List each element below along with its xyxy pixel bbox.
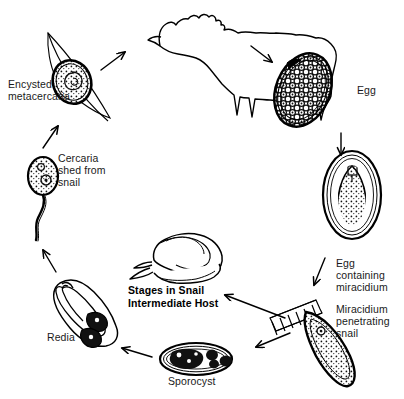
encysted-metacercaria-figure: [47, 33, 110, 121]
label-encysted-metacercaria: Encysted metacercaria: [8, 78, 70, 102]
label-egg: Egg: [357, 84, 376, 96]
cercaria-tail: [36, 195, 44, 240]
label-miracidium-penetrating-snail: Miracidium penetrating snail: [336, 303, 390, 339]
snail-figure: [130, 234, 222, 284]
cercaria-figure: [26, 155, 62, 241]
egg-containing-miracidium-figure: [323, 151, 381, 239]
arrow-egg-miracidium-to-penetrating: [314, 258, 325, 285]
life-cycle-diagram: Encysted metacercaria Egg Egg containing…: [0, 0, 404, 399]
arrow-redia-to-cercaria: [43, 250, 56, 272]
arrow-sheep-to-egg: [251, 46, 272, 62]
label-sporocyst: Sporocyst: [168, 375, 216, 387]
label-egg-containing-miracidium: Egg containing miracidium: [336, 257, 388, 293]
egg-figure: [264, 45, 343, 136]
arrow-metacercaria-to-sheep: [101, 52, 125, 70]
label-stages-in-snail-intermediate-host: Stages in Snail Intermediate Host: [128, 284, 218, 309]
sporocyst-figure: [160, 343, 232, 375]
arrow-sporocyst-to-redia: [122, 348, 152, 357]
label-cercaria-shed-from-snail: Cercaria shed from snail: [58, 152, 106, 188]
arrow-penetrating-to-snail: [225, 295, 285, 318]
arrow-cercaria-to-metacercaria: [43, 126, 58, 148]
label-redia: Redia: [47, 331, 75, 343]
arrow-penetrating-to-sporocyst: [256, 333, 290, 347]
